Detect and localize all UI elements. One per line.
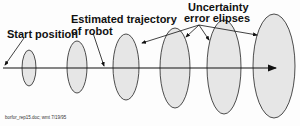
uncertainty-ellipse: [67, 41, 87, 93]
uncertainty-ellipse: [207, 20, 241, 114]
trajectory-pointer-arrow: [93, 33, 104, 66]
uncertainty-ellipse: [113, 34, 139, 100]
diagram: Start position Estimated trajectory of r…: [0, 0, 300, 126]
trajectory-label-line1: Estimated trajectory: [71, 13, 177, 25]
uncertainty-ellipse: [253, 14, 295, 118]
start-position-label: Start position: [7, 28, 78, 40]
uncertainty-label-line2: error elipses: [184, 12, 250, 24]
file-caption: borfor_rep15.doc; wmt 7/19/95: [5, 115, 66, 120]
trajectory-label-line2: of robot: [71, 25, 113, 37]
start-pointer-arrow: [5, 38, 24, 65]
ellipse-pointer-arrow: [199, 25, 209, 40]
